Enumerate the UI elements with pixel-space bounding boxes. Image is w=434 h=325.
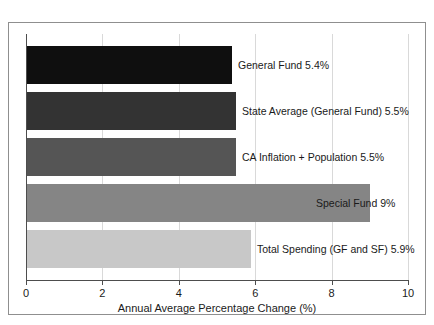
bar-ca-inflation-population xyxy=(26,138,236,176)
bar-general-fund xyxy=(26,46,232,84)
xtick-mark-8 xyxy=(332,281,333,285)
bar-label-special-fund: Special Fund 9% xyxy=(316,197,395,209)
xtick-label-4: 4 xyxy=(176,287,182,300)
bar-chart-figure: General Fund 5.4% State Average (General… xyxy=(0,0,434,325)
xtick-mark-6 xyxy=(255,281,256,285)
bar-label-general-fund: General Fund 5.4% xyxy=(238,59,329,71)
bar-total-spending xyxy=(26,230,251,268)
xtick-label-10: 10 xyxy=(402,287,414,300)
xtick-label-6: 6 xyxy=(252,287,258,300)
xtick-label-8: 8 xyxy=(329,287,335,300)
y-axis-line xyxy=(26,34,27,280)
x-axis-line xyxy=(26,280,409,281)
xtick-mark-2 xyxy=(102,281,103,285)
xtick-mark-0 xyxy=(26,281,27,285)
xtick-mark-4 xyxy=(179,281,180,285)
xtick-label-0: 0 xyxy=(23,287,29,300)
bar-state-average-general-fund xyxy=(26,92,236,130)
xtick-label-2: 2 xyxy=(99,287,105,300)
bar-label-total-spending: Total Spending (GF and SF) 5.9% xyxy=(257,243,415,255)
bar-label-state-average-general-fund: State Average (General Fund) 5.5% xyxy=(242,105,409,117)
xtick-mark-10 xyxy=(408,281,409,285)
x-axis-title: Annual Average Percentage Change (%) xyxy=(0,302,434,314)
bar-label-ca-inflation-population: CA Inflation + Population 5.5% xyxy=(242,151,384,163)
